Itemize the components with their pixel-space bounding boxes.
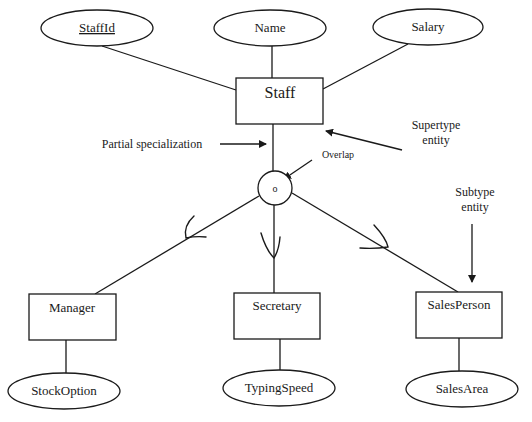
attribute-staffid: StaffId	[41, 10, 153, 46]
attribute-salesarea: SalesArea	[406, 371, 518, 407]
connector-circle-manager	[95, 196, 259, 294]
attribute-salary: Salary	[373, 9, 483, 45]
attribute-label: TypingSpeed	[245, 380, 314, 395]
arrow-overlap	[284, 160, 312, 179]
connector-salary-staff	[323, 44, 408, 89]
er-diagram: StaffId Name Salary Staff o Manager Secr…	[0, 0, 532, 422]
entity-salesperson: SalesPerson	[416, 292, 502, 338]
entity-label: Secretary	[252, 298, 302, 313]
attribute-stockoption: StockOption	[8, 373, 120, 409]
entity-staff: Staff	[236, 78, 323, 124]
subset-symbol-secretary	[261, 233, 280, 258]
entity-label: Manager	[49, 300, 96, 315]
arrow-supertype	[326, 131, 402, 150]
annotation-supertype-line2: entity	[422, 133, 449, 147]
entity-manager: Manager	[29, 294, 116, 340]
specialization-symbol: o	[273, 183, 278, 194]
connector-circle-salesperson	[292, 193, 458, 292]
attribute-name: Name	[214, 10, 326, 46]
annotation-subtype-line1: Subtype	[455, 185, 494, 199]
annotation-overlap: Overlap	[322, 149, 354, 160]
entity-label: Staff	[265, 84, 296, 101]
specialization-circle: o	[258, 171, 292, 205]
annotation-subtype-line2: entity	[461, 200, 488, 214]
attribute-label: StockOption	[31, 383, 97, 398]
attribute-label: Name	[254, 20, 285, 35]
connector-staffid-staff	[102, 46, 236, 90]
annotation-supertype-line1: Supertype	[412, 118, 461, 132]
entity-secretary: Secretary	[234, 293, 320, 339]
attribute-label: StaffId	[79, 20, 115, 35]
annotation-partial-specialization: Partial specialization	[102, 137, 202, 151]
subset-symbol-manager	[185, 216, 206, 238]
attribute-typingspeed: TypingSpeed	[223, 370, 335, 406]
attribute-label: Salary	[411, 19, 445, 34]
attribute-label: SalesArea	[436, 381, 489, 396]
entity-label: SalesPerson	[428, 297, 491, 312]
